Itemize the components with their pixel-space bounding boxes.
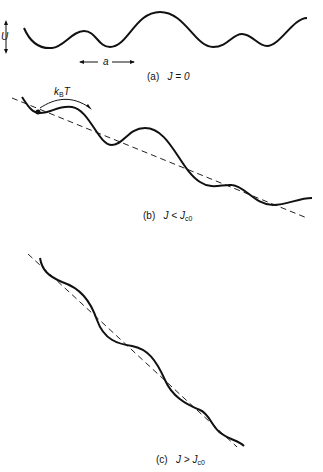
caption-a: (a) J = 0	[147, 71, 190, 82]
tilt-line-b	[12, 98, 307, 218]
particle-icon	[36, 110, 41, 115]
caption-tag: (c)	[156, 454, 168, 465]
caption-subscript: c0	[185, 215, 192, 222]
caption-math: J = 0	[168, 71, 190, 82]
caption-c: (c) J > Jc0	[156, 454, 205, 465]
potential-curve-a	[24, 12, 307, 48]
tilt-line-c	[28, 254, 237, 447]
caption-math-left: J >	[176, 454, 190, 465]
caption-tag: (a)	[147, 71, 159, 82]
thermal-energy-label: kBT	[54, 86, 70, 97]
caption-b: (b) J < Jc0	[143, 210, 192, 221]
potential-curve-b	[22, 97, 312, 205]
period-label: a	[103, 56, 109, 67]
caption-tag: (b)	[143, 210, 155, 221]
arrowhead-icon	[86, 104, 92, 110]
b-subscript: B	[59, 91, 64, 98]
potential-curve-c	[40, 258, 244, 446]
t-symbol: T	[64, 86, 70, 97]
caption-subscript: c0	[197, 459, 204, 466]
amplitude-label: U	[1, 31, 8, 42]
caption-math-left: J <	[164, 210, 178, 221]
